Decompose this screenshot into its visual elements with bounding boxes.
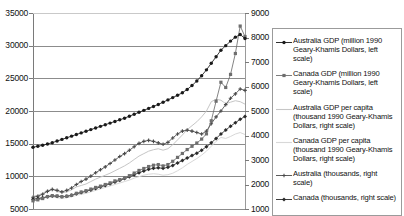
data-point <box>147 139 151 143</box>
legend-label: Australia GDP per capita (thousand 1990 … <box>293 103 398 130</box>
series-0 <box>31 33 246 149</box>
data-point <box>200 74 203 77</box>
legend-label: Canada GDP per capita (thousand 1990 Gea… <box>293 136 398 163</box>
data-point <box>205 68 208 71</box>
data-point <box>132 113 135 116</box>
legend-item[interactable]: Australia GDP per capita (thousand 1990 … <box>275 103 398 130</box>
legend-key-icon <box>275 195 293 204</box>
data-point <box>239 24 242 27</box>
data-point <box>79 131 82 134</box>
data-point <box>224 44 227 47</box>
data-point <box>195 141 198 144</box>
data-point <box>195 151 199 155</box>
data-point <box>224 86 227 89</box>
data-point <box>137 169 140 172</box>
data-point <box>70 134 73 137</box>
data-point <box>282 74 285 77</box>
data-point <box>190 154 194 158</box>
data-point <box>205 132 208 135</box>
data-point <box>171 160 174 163</box>
legend-label: Australia GDP (million 1990 Geary-Khamis… <box>293 36 398 63</box>
legend-item[interactable]: Canada GDP (million 1990 Geary-Khamis Do… <box>275 69 398 96</box>
data-point <box>156 141 160 145</box>
data-point <box>229 39 232 42</box>
data-point <box>180 158 184 162</box>
data-point <box>55 194 58 197</box>
series-line <box>33 116 245 199</box>
data-point <box>161 143 165 147</box>
data-point <box>171 96 174 99</box>
data-point <box>108 121 111 124</box>
data-point <box>142 140 146 144</box>
data-point <box>137 111 140 114</box>
data-point <box>152 105 155 108</box>
data-point <box>99 125 102 128</box>
data-point <box>31 199 34 202</box>
data-point <box>70 194 73 197</box>
data-point <box>84 130 87 133</box>
legend-key-icon <box>275 138 293 147</box>
data-point <box>142 167 145 170</box>
legend-item[interactable]: Canada (thousands, right scale) <box>275 193 398 204</box>
data-point <box>176 156 179 159</box>
legend-item[interactable]: Australia (thousands, right scale) <box>275 169 398 187</box>
data-point <box>214 55 217 58</box>
data-point <box>142 109 145 112</box>
data-point <box>195 131 199 135</box>
data-point <box>166 163 169 166</box>
legend-label: Canada GDP (million 1990 Geary-Khamis Do… <box>293 69 398 96</box>
data-point <box>89 128 92 131</box>
data-point <box>282 198 286 202</box>
data-point <box>75 133 78 136</box>
data-point <box>94 186 97 189</box>
data-point <box>219 81 222 84</box>
data-point <box>128 115 131 118</box>
chart-figure: 3500030000250002000015000100005000 90008… <box>0 0 404 216</box>
series-5 <box>31 114 247 201</box>
data-point <box>84 189 87 192</box>
data-point <box>166 98 169 101</box>
data-point <box>243 37 246 40</box>
data-point <box>133 171 136 174</box>
data-point <box>157 103 160 106</box>
data-point <box>118 118 121 121</box>
data-point <box>51 194 54 197</box>
data-point <box>210 62 213 65</box>
data-point <box>229 73 232 76</box>
data-point <box>186 148 189 151</box>
data-point <box>190 84 193 87</box>
data-point <box>46 195 49 198</box>
data-point <box>234 52 237 55</box>
data-point <box>185 88 188 91</box>
data-point <box>151 166 155 170</box>
legend-item[interactable]: Australia GDP (million 1990 Geary-Khamis… <box>275 36 398 63</box>
data-point <box>243 114 247 118</box>
legend-key-icon <box>275 105 293 114</box>
series-line <box>33 35 245 148</box>
legend-key-icon <box>275 171 293 180</box>
data-point <box>36 198 39 201</box>
data-point <box>60 138 63 141</box>
data-point <box>214 100 217 103</box>
legend-item[interactable]: Canada GDP per capita (thousand 1990 Gea… <box>275 136 398 163</box>
data-point <box>157 163 160 166</box>
data-point <box>147 107 150 110</box>
data-point <box>185 156 189 160</box>
data-point <box>200 137 203 140</box>
data-point <box>210 119 213 122</box>
data-point <box>243 89 247 93</box>
legend-key-icon <box>275 71 293 80</box>
data-point <box>65 195 68 198</box>
legend-label: Australia (thousands, right scale) <box>293 169 398 187</box>
data-point <box>46 142 49 145</box>
data-point <box>51 141 54 144</box>
data-point <box>282 41 285 44</box>
data-point <box>113 120 116 123</box>
data-point <box>41 197 44 200</box>
data-point <box>123 176 126 179</box>
data-point <box>195 79 198 82</box>
data-point <box>156 166 160 170</box>
data-point <box>128 174 131 177</box>
data-point <box>104 123 107 126</box>
data-point <box>89 187 92 190</box>
